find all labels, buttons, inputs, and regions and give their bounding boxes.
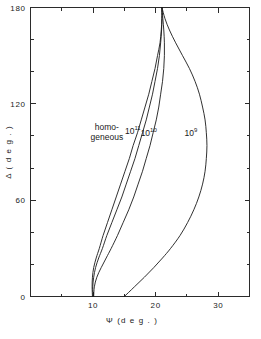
curve-label-109: 109 <box>184 127 197 138</box>
curve-label-1010: 1010 <box>141 127 158 138</box>
curve-label-1011: 1011 <box>125 125 141 136</box>
ticks-group <box>31 8 250 297</box>
curve-label-homogeneous: homo-geneous <box>91 122 124 142</box>
axis-titles-group: Ψ (d e g . )Δ ( d e g . ) <box>4 125 158 324</box>
y-tick-label: 120 <box>10 100 25 109</box>
y-tick-label: 180 <box>10 4 25 13</box>
data-curve-homogeneous <box>92 8 162 297</box>
plot-frame <box>31 8 250 297</box>
y-tick-label: 60 <box>15 196 25 205</box>
y-axis-title: Δ ( d e g . ) <box>4 125 13 178</box>
figure-container: 102030060120180 homo-geneous10111010109 … <box>0 0 261 339</box>
chart-plot: 102030060120180 homo-geneous10111010109 … <box>0 0 261 339</box>
curve-labels-group: homo-geneous10111010109 <box>91 122 198 142</box>
axes-group <box>31 8 250 297</box>
x-tick-label: 10 <box>88 301 98 310</box>
y-tick-label: 0 <box>20 293 25 302</box>
x-tick-label: 20 <box>151 301 161 310</box>
x-axis-title: Ψ (d e g . ) <box>106 316 158 325</box>
tick-labels-group: 102030060120180 <box>10 4 223 310</box>
data-curve-1010 <box>94 8 165 297</box>
data-curve-1011 <box>93 8 162 297</box>
x-tick-label: 30 <box>213 301 223 310</box>
curves-group <box>92 8 207 297</box>
